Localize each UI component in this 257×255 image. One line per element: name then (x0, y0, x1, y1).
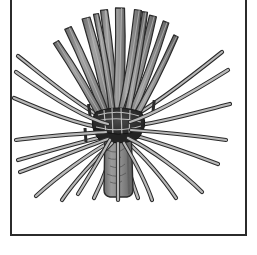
binding-knot (92, 108, 144, 143)
figure-illustration (0, 0, 257, 255)
illustration-page: Bundled stems tied to a central stalk Gr… (0, 0, 257, 255)
